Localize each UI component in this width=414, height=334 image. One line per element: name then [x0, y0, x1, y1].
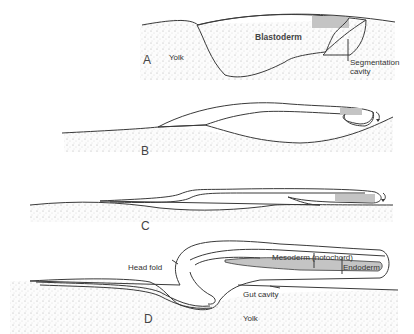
panel-b: B	[62, 103, 393, 158]
embryo-diagram: A Yolk Blastoderm Segmentation cavity B …	[0, 0, 414, 334]
yolk-label-a: Yolk	[169, 53, 185, 62]
panel-d: D Head fold Mesoderm (notochord) Endoder…	[10, 241, 398, 334]
gut-cavity-label: Gut cavity	[243, 290, 279, 299]
mesoderm-label: Mesoderm (notochord)	[272, 253, 353, 262]
stage-label-d: D	[144, 312, 153, 326]
blastoderm-dark-patch	[312, 16, 349, 28]
yolk-region-b	[64, 117, 393, 152]
panel-a: A Yolk Blastoderm Segmentation cavity	[140, 14, 399, 80]
segmentation-label-1: Segmentation	[350, 58, 399, 67]
yolk-label-d: Yolk	[243, 314, 259, 323]
endoderm-label: Endoderm	[343, 263, 380, 272]
stage-label-c: C	[141, 219, 150, 233]
panel-c: C	[30, 189, 393, 233]
mesoderm-patch-b	[340, 108, 362, 115]
blastoderm-label: Blastoderm	[255, 32, 302, 42]
stage-label-a: A	[143, 53, 151, 67]
segmentation-label-2: cavity	[350, 67, 370, 76]
head-fold-label: Head fold	[128, 263, 162, 272]
stage-label-b: B	[141, 144, 149, 158]
mesoderm-patch-c	[335, 194, 375, 202]
